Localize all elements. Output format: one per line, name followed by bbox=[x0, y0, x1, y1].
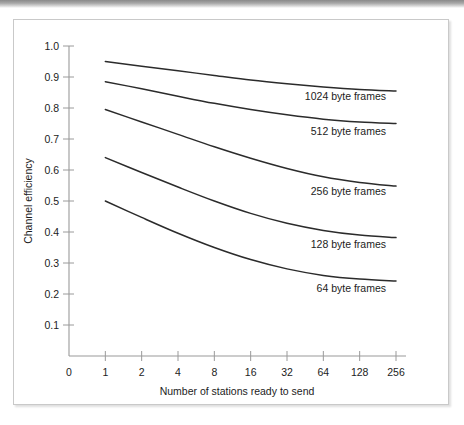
y-tick-label: 0.7 bbox=[44, 133, 59, 145]
x-tick-label: 256 bbox=[387, 366, 405, 378]
y-tick-label: 0.3 bbox=[44, 257, 59, 269]
series-label: 64 byte frames bbox=[317, 282, 386, 294]
y-axis-tick-labels: 0.10.20.30.40.50.60.70.80.91.0 bbox=[44, 40, 59, 331]
series-label: 128 byte frames bbox=[311, 238, 386, 250]
window-top-band bbox=[0, 0, 464, 8]
y-tick-label: 1.0 bbox=[44, 40, 59, 52]
x-tick-label: 128 bbox=[351, 366, 369, 378]
y-tick-label: 0.6 bbox=[44, 164, 59, 176]
channel-efficiency-chart: 0.10.20.30.40.50.60.70.80.91.0 012481632… bbox=[14, 20, 448, 404]
series-label: 512 byte frames bbox=[311, 125, 386, 137]
series-curve bbox=[105, 158, 396, 238]
x-tick-label: 64 bbox=[317, 366, 329, 378]
series-label: 1024 byte frames bbox=[305, 90, 386, 102]
x-axis-tick-labels: 01248163264128256 bbox=[66, 366, 405, 378]
y-tick-label: 0.8 bbox=[44, 102, 59, 114]
x-tick-label: 16 bbox=[245, 366, 257, 378]
series-curve bbox=[105, 62, 396, 91]
x-axis-title: Number of stations ready to send bbox=[160, 385, 315, 397]
y-axis-title: Channel efficiency bbox=[22, 157, 34, 243]
series-label: 256 byte frames bbox=[311, 185, 386, 197]
x-tick-label: 0 bbox=[66, 366, 72, 378]
y-tick-label: 0.2 bbox=[44, 288, 59, 300]
x-tick-label: 32 bbox=[281, 366, 293, 378]
x-tick-label: 2 bbox=[139, 366, 145, 378]
series-curve bbox=[105, 82, 396, 124]
x-tick-label: 1 bbox=[102, 366, 108, 378]
y-tick-label: 0.5 bbox=[44, 195, 59, 207]
figure-card: 0.10.20.30.40.50.60.70.80.91.0 012481632… bbox=[13, 19, 449, 405]
x-tick-label: 8 bbox=[211, 366, 217, 378]
y-tick-label: 0.4 bbox=[44, 226, 59, 238]
y-tick-label: 0.9 bbox=[44, 71, 59, 83]
y-tick-label: 0.1 bbox=[44, 319, 59, 331]
x-tick-label: 4 bbox=[175, 366, 181, 378]
